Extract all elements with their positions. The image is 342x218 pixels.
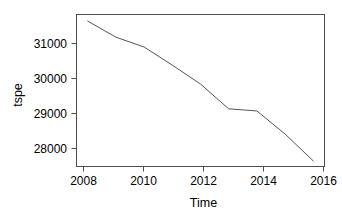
y-tick-label-28000: 28000 xyxy=(34,142,68,156)
plot-area-border xyxy=(77,15,325,167)
x-axis-title: Time xyxy=(190,196,217,210)
y-tick-label-30000: 30000 xyxy=(34,72,68,86)
x-tick-label-2014: 2014 xyxy=(250,174,277,188)
x-axis-tick-labels: 2008 2010 2012 2014 2016 xyxy=(70,174,337,188)
x-axis-ticks xyxy=(84,167,324,172)
chart-figure: 31000 30000 29000 28000 2008 2010 2012 2… xyxy=(0,0,342,218)
line-chart-canvas: 31000 30000 29000 28000 2008 2010 2012 2… xyxy=(0,0,342,218)
y-tick-label-31000: 31000 xyxy=(34,37,68,51)
x-tick-label-2016: 2016 xyxy=(310,174,337,188)
series-line-tspe xyxy=(88,21,313,161)
y-tick-label-29000: 29000 xyxy=(34,107,68,121)
y-axis-ticks xyxy=(72,44,77,149)
x-tick-label-2010: 2010 xyxy=(130,174,157,188)
y-axis-tick-labels: 31000 30000 29000 28000 xyxy=(34,37,68,156)
y-axis-title: tspe xyxy=(11,83,25,107)
x-tick-label-2012: 2012 xyxy=(190,174,217,188)
x-tick-label-2008: 2008 xyxy=(70,174,97,188)
